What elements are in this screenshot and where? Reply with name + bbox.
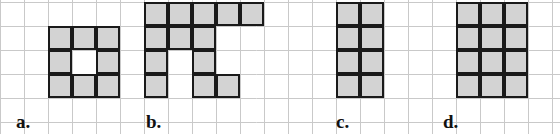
grid-square: [144, 50, 168, 74]
grid-square: [336, 26, 360, 50]
grid-square: [48, 26, 72, 50]
figure-d[interactable]: [456, 2, 528, 98]
grid-square: [96, 74, 120, 98]
figure-sheet: a.b.c.d.: [0, 0, 560, 134]
grid-square: [168, 26, 192, 50]
grid-square: [336, 2, 360, 26]
grid-square: [360, 50, 384, 74]
grid-square: [216, 2, 240, 26]
grid-square: [480, 74, 504, 98]
grid-square: [192, 50, 216, 74]
grid-square: [192, 2, 216, 26]
grid-square: [480, 50, 504, 74]
grid-square: [504, 74, 528, 98]
grid-square: [360, 74, 384, 98]
grid-square: [336, 74, 360, 98]
grid-square: [456, 74, 480, 98]
grid-square: [456, 26, 480, 50]
grid-square: [144, 2, 168, 26]
grid-square: [168, 2, 192, 26]
grid-square: [480, 26, 504, 50]
grid-square: [96, 26, 120, 50]
figure-label-d: d.: [443, 112, 458, 131]
grid-square: [72, 74, 96, 98]
grid-square: [240, 2, 264, 26]
grid-square: [456, 50, 480, 74]
grid-square: [360, 26, 384, 50]
figure-c[interactable]: [336, 2, 384, 98]
grid-square: [48, 74, 72, 98]
grid-square: [504, 50, 528, 74]
grid-square: [72, 26, 96, 50]
grid-square: [48, 50, 72, 74]
grid-square: [360, 2, 384, 26]
grid-square: [192, 26, 216, 50]
figure-label-a: a.: [16, 112, 30, 131]
grid-square: [144, 74, 168, 98]
grid-square: [336, 50, 360, 74]
grid-square: [216, 74, 240, 98]
grid-square: [504, 26, 528, 50]
grid-square: [504, 2, 528, 26]
grid-square: [144, 26, 168, 50]
figure-label-c: c.: [336, 112, 349, 131]
figure-b[interactable]: [144, 2, 264, 98]
figure-label-b: b.: [146, 112, 161, 131]
grid-square: [480, 2, 504, 26]
grid-square: [96, 50, 120, 74]
grid-square: [456, 2, 480, 26]
grid-square: [192, 74, 216, 98]
figure-a[interactable]: [48, 26, 120, 98]
